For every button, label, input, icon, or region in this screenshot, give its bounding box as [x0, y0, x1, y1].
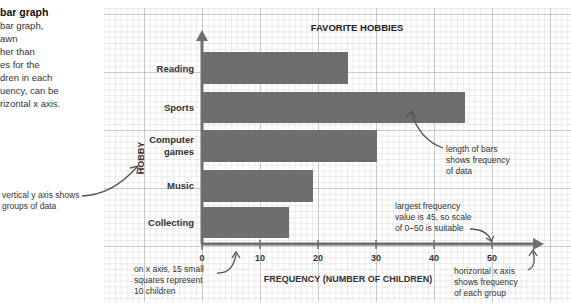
annotation-line: groups of data	[2, 201, 79, 212]
annotation-line: shows frequency	[454, 277, 518, 288]
category-label-sports: Sports	[164, 102, 194, 113]
bar-sports	[202, 92, 465, 123]
tick-label: 10	[255, 253, 265, 263]
annotation-line: vertical y axis shows	[2, 190, 79, 201]
annotation-x-axis: horizontal x axis shows frequency of eac…	[454, 266, 518, 299]
annotation-scale: largest frequency value is 45, so scale …	[395, 201, 472, 234]
tick-label: 20	[313, 253, 323, 263]
annotation-line: 10 children	[134, 286, 204, 297]
category-label-music: Music	[167, 180, 194, 191]
category-label-games: games	[164, 146, 194, 157]
arrow-xaxis-icon	[528, 252, 534, 270]
bar-computer-games	[202, 130, 377, 162]
annotation-y-axis: vertical y axis shows groups of data	[2, 190, 79, 212]
bar-music	[202, 170, 313, 202]
arrow-yaxis-icon	[82, 167, 137, 196]
annotation-bar-length: length of bars shows frequency of data	[446, 144, 510, 177]
tick-label: 0	[199, 253, 204, 263]
tick-label: 50	[487, 253, 497, 263]
category-label-collecting: Collecting	[148, 217, 194, 228]
category-label-reading: Reading	[157, 63, 195, 74]
arrow-scale-icon	[470, 229, 491, 240]
annotation-line: of each group	[454, 288, 518, 299]
chart-title: FAVORITE HOBBIES	[311, 22, 404, 33]
bar-collecting	[202, 207, 289, 238]
tick-label: 40	[429, 253, 439, 263]
annotation-line: value is 45, so scale	[395, 212, 472, 223]
annotation-line: shows frequency	[446, 155, 510, 166]
annotation-line: largest frequency	[395, 201, 472, 212]
bar-reading	[202, 52, 348, 84]
x-axis-label: FREQUENCY (NUMBER OF CHILDREN)	[264, 274, 432, 284]
annotation-line: squares represent	[134, 275, 204, 286]
annotation-line: horizontal x axis	[454, 266, 518, 277]
annotation-small-squares: on x axis, 15 small squares represent 10…	[134, 264, 204, 297]
x-axis-arrow-icon	[533, 238, 544, 250]
tick-label: 30	[371, 253, 381, 263]
y-axis-arrow-icon	[196, 30, 208, 41]
category-label-computer: Computer	[149, 134, 194, 145]
annotation-line: of data	[446, 166, 510, 177]
annotation-line: of 0–50 is suitable	[395, 223, 472, 234]
annotation-line: length of bars	[446, 144, 510, 155]
annotation-line: on x axis, 15 small	[134, 264, 204, 275]
